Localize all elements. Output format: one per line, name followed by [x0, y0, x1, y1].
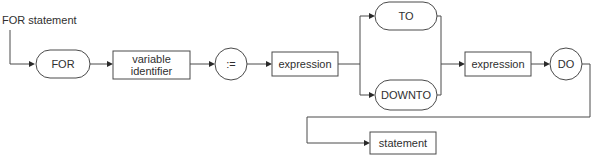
arrow-icon	[29, 61, 35, 67]
entry-line	[10, 30, 33, 64]
statement-label: statement	[370, 137, 436, 149]
variable-identifier-label: variable identifier	[113, 53, 190, 77]
do-keyword-label: DO	[550, 58, 582, 70]
diagram-title: FOR statement	[2, 14, 77, 26]
expression-start-label: expression	[272, 58, 338, 70]
for-keyword-label: FOR	[36, 58, 90, 70]
merge-line	[437, 16, 441, 95]
downto-keyword-label: DOWNTO	[375, 89, 437, 101]
expression-end-label: expression	[465, 58, 531, 70]
return-line	[307, 64, 590, 143]
diagram-connectors	[0, 0, 596, 160]
assign-label: :=	[215, 58, 247, 70]
to-keyword-label: TO	[375, 10, 437, 22]
